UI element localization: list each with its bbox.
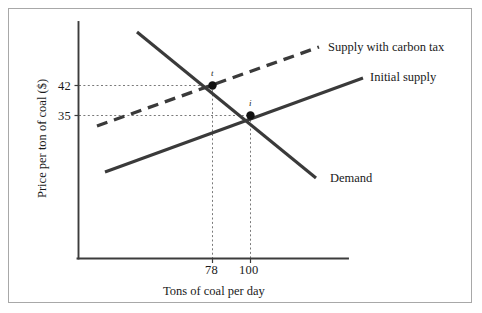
initial-supply-label: Initial supply [370,71,436,84]
point-label-tax-equilibrium: t [211,69,214,78]
supply-with-carbon-tax-curve [97,47,319,126]
x-axis-title: Tons of coal per day [163,285,265,298]
figure-root: 42 35 78 100 Price per ton of coal ($) T… [0,0,482,313]
axes [75,22,349,263]
x-tick-label-100: 100 [239,264,258,277]
initial-supply-curve [105,78,363,172]
equilibrium-points [208,81,254,119]
guide-lines [79,86,251,259]
equilibrium-point-t [208,81,216,89]
y-tick-label-42: 42 [58,80,71,93]
curves [97,32,363,178]
supply-with-carbon-tax-label: Supply with carbon tax [328,41,444,54]
x-tick-label-78: 78 [205,264,218,277]
demand-label: Demand [330,172,372,185]
point-label-initial-equilibrium: i [249,99,252,108]
y-axis-title: Price per ton of coal ($) [36,79,49,198]
equilibrium-point-i [246,111,254,119]
y-tick-label-35: 35 [58,110,71,123]
